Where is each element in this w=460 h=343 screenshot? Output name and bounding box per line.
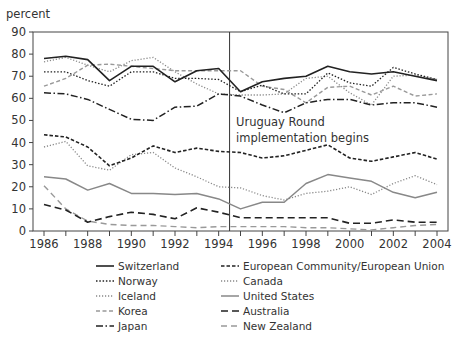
x-tick-label: 1988 [73,237,102,250]
legend-item: Canada [221,273,444,288]
line-chart: 0102030405060708090198619881990199219941… [0,0,460,250]
legend-label: Iceland [118,290,156,302]
x-tick-label: 1992 [160,237,189,250]
legend-swatch-icon [221,262,239,270]
legend-label: Korea [118,305,148,317]
legend-label: New Zealand [243,320,312,332]
legend-item: Switzerland [96,258,179,273]
x-tick-label: 1986 [29,237,58,250]
series-united-states [44,175,437,209]
legend-swatch-icon [221,292,239,300]
legend-item: United States [221,288,444,303]
x-tick-label: 2000 [335,237,364,250]
legend-item: European Community/European Union [221,258,444,273]
x-tick-label: 2004 [422,237,451,250]
y-tick-label: 0 [19,224,26,238]
legend-item: Japan [96,318,179,333]
legend-left-column: SwitzerlandNorwayIcelandKoreaJapan [96,258,179,333]
series-canada [44,141,437,200]
legend-swatch-icon [96,322,114,330]
x-tick-label: 1994 [204,237,233,250]
legend-item: Korea [96,303,179,318]
legend-label: Japan [118,320,147,332]
legend-label: Australia [243,305,289,317]
series-switzerland [44,56,437,91]
y-tick-label: 70 [11,69,26,83]
y-tick-label: 30 [11,158,26,172]
legend-label: Switzerland [118,260,179,272]
legend-swatch-icon [96,292,114,300]
series-australia [44,205,437,224]
legend-label: United States [243,290,314,302]
annotation-line-2: implementation begins [236,130,369,146]
uruguay-round-annotation: Uruguay Round implementation begins [236,114,369,146]
annotation-line-1: Uruguay Round [236,114,369,130]
x-tick-label: 2002 [379,237,408,250]
y-tick-label: 80 [11,47,26,61]
x-tick-label: 1990 [117,237,146,250]
y-tick-label: 20 [11,180,26,194]
legend-label: Norway [118,275,158,287]
legend-swatch-icon [96,307,114,315]
legend-swatch-icon [221,322,239,330]
legend-swatch-icon [96,277,114,285]
y-tick-label: 50 [11,113,26,127]
legend-swatch-icon [221,277,239,285]
x-tick-label: 1996 [248,237,277,250]
series-new-zealand [44,186,437,230]
y-tick-label: 60 [11,91,26,105]
legend-right-column: European Community/European UnionCanadaU… [221,258,444,333]
legend-item: Australia [221,303,444,318]
y-tick-label: 10 [11,202,26,216]
y-tick-label: 40 [11,136,26,150]
legend-label: Canada [243,275,283,287]
y-tick-label: 90 [11,25,26,39]
legend-item: Norway [96,273,179,288]
x-tick-label: 1998 [291,237,320,250]
legend-item: New Zealand [221,318,444,333]
legend-swatch-icon [221,307,239,315]
legend-swatch-icon [96,262,114,270]
legend-item: Iceland [96,288,179,303]
legend-label: European Community/European Union [243,260,444,272]
